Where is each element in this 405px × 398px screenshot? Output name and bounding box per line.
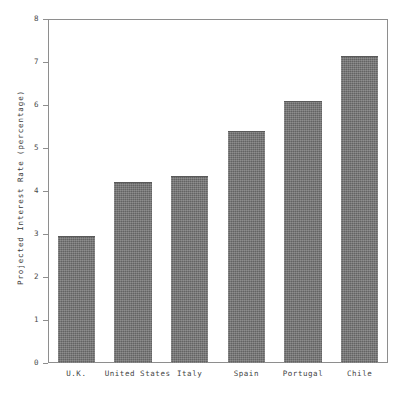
y-axis-title-container: Projected Interest Rate (percentage) (0, 0, 34, 398)
y-axis-tick-mark (43, 363, 48, 364)
y-axis-tick: 6 (0, 105, 48, 106)
bar-slot (171, 19, 208, 363)
y-axis-tick-label: 2 (34, 272, 39, 281)
bar[interactable] (284, 101, 321, 363)
y-axis-tick: 3 (0, 234, 48, 235)
bar[interactable] (58, 236, 95, 363)
bar-slot (228, 19, 265, 363)
bar[interactable] (341, 56, 378, 363)
x-axis-tick-label: U.K. (48, 369, 105, 378)
y-axis-tick-label: 0 (34, 358, 39, 367)
bar-chart-figure: Projected Interest Rate (percentage) 012… (0, 0, 405, 398)
y-axis-tick-label: 1 (34, 315, 39, 324)
x-axis-tick-label: United States (105, 369, 162, 378)
y-axis-tick: 5 (0, 148, 48, 149)
y-axis-tick-label: 8 (34, 14, 39, 23)
x-axis-tick-label: Italy (161, 369, 218, 378)
bar-slot (58, 19, 95, 363)
y-axis-tick: 0 (0, 363, 48, 364)
y-axis-tick: 4 (0, 191, 48, 192)
x-axis-tick-label: Portugal (275, 369, 332, 378)
bar[interactable] (114, 182, 151, 363)
y-axis-tick-label: 6 (34, 100, 39, 109)
bar[interactable] (228, 131, 265, 363)
y-axis-tick-label: 7 (34, 57, 39, 66)
bar[interactable] (171, 176, 208, 363)
y-axis-tick: 1 (0, 320, 48, 321)
y-axis-tick-label: 4 (34, 186, 39, 195)
x-axis-tick-label: Spain (218, 369, 275, 378)
y-axis-tick-label: 5 (34, 143, 39, 152)
y-axis-tick: 8 (0, 19, 48, 20)
x-axis-tick-labels: U.K.United StatesItalySpainPortugalChile (48, 369, 388, 389)
bar-slot (284, 19, 321, 363)
bar-slot (341, 19, 378, 363)
y-axis-tick: 2 (0, 277, 48, 278)
bar-slot (114, 19, 151, 363)
bar-series (48, 19, 388, 363)
y-axis-tick: 7 (0, 62, 48, 63)
y-axis-tick-label: 3 (34, 229, 39, 238)
x-axis-tick-label: Chile (331, 369, 388, 378)
